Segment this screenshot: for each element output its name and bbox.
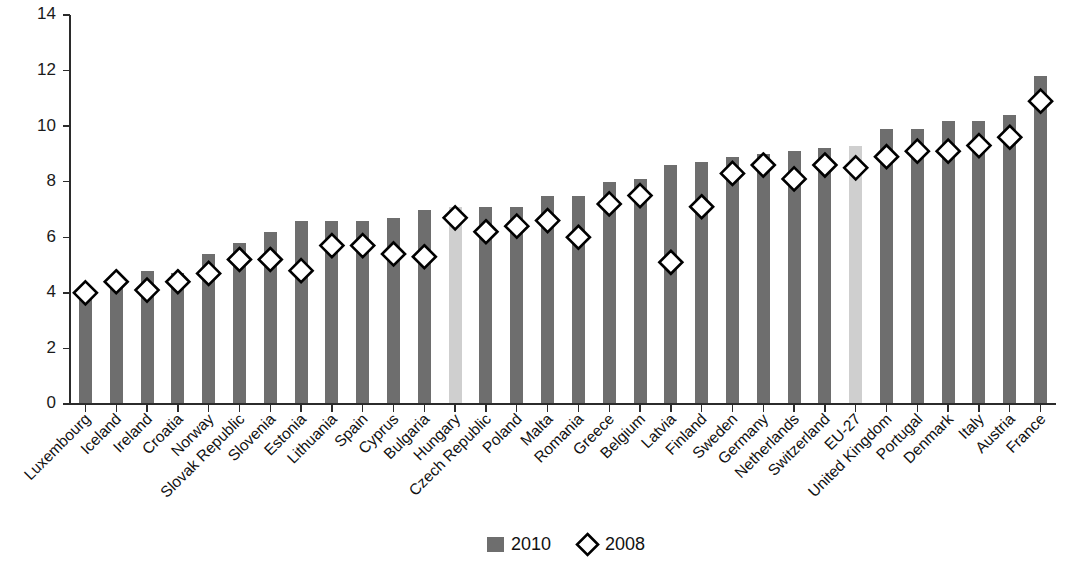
data-point-marker — [444, 206, 467, 229]
data-point-marker — [967, 134, 990, 157]
data-point-marker — [659, 251, 682, 274]
data-point-marker — [1029, 90, 1052, 113]
y-tick-label: 10 — [37, 116, 56, 135]
data-point-marker — [351, 234, 374, 257]
bar — [849, 146, 862, 404]
data-point-marker — [105, 270, 128, 293]
y-tick-label: 6 — [47, 227, 56, 246]
legend-label: 2010 — [511, 534, 551, 554]
bar — [972, 121, 985, 404]
data-point-marker — [937, 140, 960, 163]
markers-layer — [74, 90, 1052, 305]
y-tick-label: 14 — [37, 4, 56, 23]
data-point-marker — [998, 126, 1021, 149]
bar — [726, 157, 739, 404]
bar — [418, 210, 431, 405]
bar — [818, 148, 831, 404]
legend-label: 2008 — [605, 534, 645, 554]
bar — [664, 165, 677, 404]
y-tick-label: 0 — [47, 393, 56, 412]
chart-container: 02468101214 LuxembourgIcelandIrelandCroa… — [0, 0, 1067, 562]
y-tick-label: 2 — [47, 338, 56, 357]
data-point-marker — [783, 167, 806, 190]
bar — [449, 207, 462, 404]
data-point-marker — [752, 154, 775, 177]
data-point-marker — [598, 192, 621, 215]
data-point-marker — [228, 248, 251, 271]
data-point-marker — [320, 234, 343, 257]
bar-chart: 02468101214 LuxembourgIcelandIrelandCroa… — [0, 0, 1067, 562]
bar — [634, 179, 647, 404]
bar — [911, 129, 924, 404]
bar — [1003, 115, 1016, 404]
data-point-marker — [413, 245, 436, 268]
data-point-marker — [290, 259, 313, 282]
data-point-marker — [259, 248, 282, 271]
data-point-marker — [567, 226, 590, 249]
data-point-marker — [382, 242, 405, 265]
data-point-marker — [690, 195, 713, 218]
data-point-marker — [906, 140, 929, 163]
bar — [79, 296, 92, 404]
data-point-marker — [875, 145, 898, 168]
y-tick-label: 8 — [47, 171, 56, 190]
data-point-marker — [197, 262, 220, 285]
data-point-marker — [474, 220, 497, 243]
bar — [757, 154, 770, 404]
y-axis: 02468101214 — [37, 4, 70, 412]
chart-legend: 20102008 — [487, 534, 645, 555]
data-point-marker — [74, 281, 97, 304]
data-point-marker — [844, 156, 867, 179]
bar — [110, 282, 123, 404]
data-point-marker — [813, 154, 836, 177]
legend-swatch-2010 — [487, 537, 504, 552]
x-axis: LuxembourgIcelandIrelandCroatiaNorwaySlo… — [21, 404, 1056, 501]
data-point-marker — [136, 279, 159, 302]
bar — [1034, 76, 1047, 404]
data-point-marker — [629, 184, 652, 207]
data-point-marker — [505, 215, 528, 238]
data-point-marker — [536, 209, 559, 232]
data-point-marker — [166, 270, 189, 293]
legend-swatch-2008 — [577, 534, 598, 555]
bar — [880, 129, 893, 404]
data-point-marker — [721, 162, 744, 185]
y-tick-label: 12 — [37, 60, 56, 79]
y-tick-label: 4 — [47, 282, 56, 301]
bar — [295, 221, 308, 404]
bars-layer — [79, 76, 1047, 404]
